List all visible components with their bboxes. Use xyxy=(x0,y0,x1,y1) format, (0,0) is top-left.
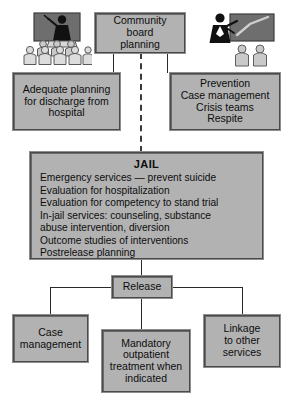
classroom-presentation-illustration xyxy=(22,11,92,67)
node-label: Case management xyxy=(17,327,84,351)
connector-jail-to-release xyxy=(141,259,142,276)
node-prevention-services[interactable]: Prevention Case management Crisis teams … xyxy=(170,73,280,130)
connector-release-to-mandatory xyxy=(141,298,142,330)
presenter-with-checkmark-board-illustration xyxy=(204,9,276,67)
node-case-management[interactable]: Case management xyxy=(13,315,88,362)
node-label: Prevention Case management Crisis teams … xyxy=(178,78,273,125)
node-label: Linkage to other services xyxy=(220,323,265,358)
node-label: Mandatory outpatient treatment when indi… xyxy=(107,338,185,385)
node-label: Release xyxy=(120,281,165,293)
node-label: Community board planning xyxy=(96,15,184,50)
connector-release-to-case xyxy=(50,287,51,315)
connector-release-right-arm xyxy=(172,287,242,288)
node-jail[interactable]: JAIL Emergency services — prevent suicid… xyxy=(30,152,263,259)
node-linkage-to-other-services[interactable]: Linkage to other services xyxy=(204,315,280,367)
node-release[interactable]: Release xyxy=(112,276,172,298)
node-label: Adequate planning for discharge from hos… xyxy=(20,84,114,119)
connector-release-to-linkage xyxy=(242,287,243,315)
node-community-board-planning[interactable]: Community board planning xyxy=(95,13,185,53)
jail-title: JAIL xyxy=(31,158,262,170)
jail-service-list: Emergency services — prevent suicide Eva… xyxy=(31,172,262,259)
flowchart-diagram: Community board planning Adequate planni… xyxy=(0,0,293,406)
node-adequate-planning[interactable]: Adequate planning for discharge from hos… xyxy=(13,73,120,130)
connector-community-to-prevention xyxy=(167,53,168,73)
connector-community-to-adequate xyxy=(113,53,114,73)
connector-release-left-arm xyxy=(50,287,112,288)
node-mandatory-outpatient-treatment[interactable]: Mandatory outpatient treatment when indi… xyxy=(102,330,190,392)
connector-community-to-jail-dashed xyxy=(140,53,142,152)
